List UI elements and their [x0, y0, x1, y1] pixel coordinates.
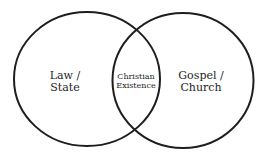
- christian-existence-label: Christian Existence: [111, 73, 161, 90]
- intersection-label-line2: Existence: [111, 82, 161, 90]
- gospel-label-line1: Gospel /: [171, 70, 231, 81]
- gospel-church-label: Gospel / Church: [171, 70, 231, 93]
- intersection-label-line1: Christian: [111, 73, 161, 81]
- gospel-label-line2: Church: [171, 82, 231, 93]
- law-label-line2: State: [40, 82, 90, 93]
- law-state-label: Law / State: [40, 70, 90, 93]
- law-label-line1: Law /: [40, 70, 90, 81]
